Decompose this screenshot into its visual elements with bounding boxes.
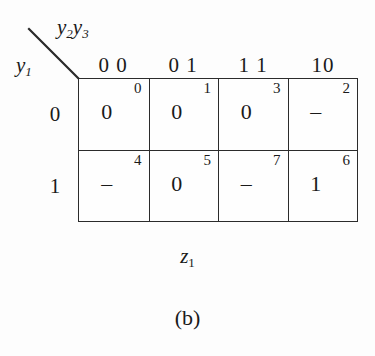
kmap-cell-1: 1 0 bbox=[149, 79, 219, 150]
column-headers: 0 0 0 1 1 1 10 bbox=[78, 52, 358, 78]
minterm-value: – bbox=[289, 101, 358, 123]
row-headers: 0 1 bbox=[38, 78, 72, 222]
row-header-0: 0 bbox=[38, 78, 72, 150]
figure-caption: (b) bbox=[0, 307, 375, 329]
table-row: 0 0 1 0 3 0 2 – bbox=[79, 79, 357, 150]
column-variables-label: y2y3 bbox=[57, 17, 89, 38]
kmap-grid: 0 0 1 0 3 0 2 – 4 – 5 0 bbox=[78, 78, 358, 222]
minterm-value: 0 bbox=[150, 173, 219, 195]
column-header-11: 1 1 bbox=[218, 52, 288, 78]
row-variable-label: y1 bbox=[16, 55, 32, 76]
row-variable-letter: y bbox=[16, 53, 25, 77]
row-header-1: 1 bbox=[38, 150, 72, 222]
karnaugh-map-figure: y2y3 y1 0 0 0 1 1 1 10 0 1 0 0 1 0 3 0 bbox=[0, 0, 375, 356]
minterm-value: 1 bbox=[289, 173, 358, 195]
minterm-index: 1 bbox=[204, 80, 212, 97]
minterm-index: 3 bbox=[273, 80, 281, 97]
column-variables-sub-2: 3 bbox=[82, 26, 89, 41]
minterm-index: 4 bbox=[134, 152, 142, 169]
output-function-sub: 1 bbox=[188, 255, 195, 270]
kmap-cell-0: 0 0 bbox=[79, 79, 149, 150]
minterm-value: 0 bbox=[219, 101, 288, 123]
minterm-index: 2 bbox=[343, 80, 351, 97]
kmap-cell-6: 6 1 bbox=[288, 151, 358, 222]
column-variables-letter-1: y bbox=[57, 15, 66, 39]
minterm-index: 7 bbox=[273, 152, 281, 169]
minterm-value: – bbox=[219, 173, 288, 195]
minterm-index: 5 bbox=[204, 152, 212, 169]
kmap-cell-3: 3 0 bbox=[218, 79, 288, 150]
column-variables-letter-2: y bbox=[73, 15, 82, 39]
kmap-cell-2: 2 – bbox=[288, 79, 358, 150]
kmap-cell-4: 4 – bbox=[79, 151, 149, 222]
output-function-label: z1 bbox=[0, 246, 375, 267]
minterm-index: 6 bbox=[343, 152, 351, 169]
column-header-10: 10 bbox=[288, 52, 358, 78]
minterm-index: 0 bbox=[134, 80, 142, 97]
row-variable-sub: 1 bbox=[25, 64, 32, 79]
kmap-cell-5: 5 0 bbox=[149, 151, 219, 222]
column-header-00: 0 0 bbox=[78, 52, 148, 78]
column-header-01: 0 1 bbox=[148, 52, 218, 78]
minterm-value: – bbox=[79, 173, 149, 195]
minterm-value: 0 bbox=[79, 101, 149, 123]
table-row: 4 – 5 0 7 – 6 1 bbox=[79, 150, 357, 222]
minterm-value: 0 bbox=[150, 101, 219, 123]
column-variables-sub-1: 2 bbox=[66, 26, 73, 41]
kmap-cell-7: 7 – bbox=[218, 151, 288, 222]
